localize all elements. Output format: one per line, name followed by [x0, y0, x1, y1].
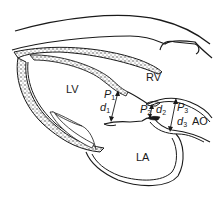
- label-p2: P2: [140, 104, 151, 116]
- la-wall-inner: [92, 138, 177, 180]
- label-lv: LV: [66, 84, 79, 95]
- label-p3: P3: [177, 102, 188, 114]
- label-rv: RV: [146, 72, 161, 83]
- chest-wall-line: [15, 16, 210, 44]
- la-wall-outer: [86, 134, 183, 186]
- label-d1: d1: [100, 102, 110, 114]
- label-d3: d3: [177, 116, 187, 128]
- label-d2: d2: [156, 104, 166, 116]
- mitral-tip: [104, 124, 116, 126]
- label-ao: AO: [192, 116, 208, 127]
- label-la: LA: [136, 152, 149, 163]
- heart-diagram: LV RV LA AO P1 d1 P2 d2 P3 d3: [0, 0, 222, 200]
- label-p1: P1: [104, 89, 115, 101]
